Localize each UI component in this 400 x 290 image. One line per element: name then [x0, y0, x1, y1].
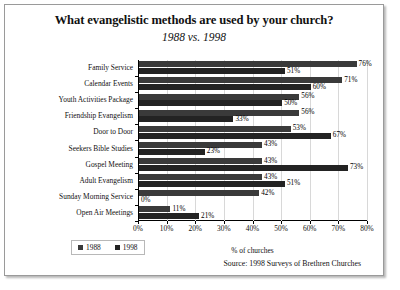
- bar-1998: [139, 181, 285, 187]
- bar-value-label: 43%: [264, 174, 277, 181]
- bar-value-label: 67%: [333, 132, 346, 139]
- gridline: [367, 60, 368, 221]
- x-axis-title: % of churches: [138, 246, 367, 255]
- bar-row: Adult Evangelism43%51%: [138, 173, 367, 189]
- category-label: Open Air Meetings: [76, 209, 133, 216]
- legend-item-1998: 1998: [115, 243, 138, 252]
- category-label: Door to Door: [93, 128, 133, 135]
- x-tick-label: 60%: [303, 224, 317, 233]
- x-tick-label: 10%: [160, 224, 174, 233]
- bar-row: Calendar Events71%60%: [138, 76, 367, 92]
- category-label: Adult Evangelism: [79, 177, 133, 184]
- bar-row: Gospel Meeting43%73%: [138, 157, 367, 173]
- category-label: Seekers Bible Studies: [69, 145, 133, 152]
- bar-value-label: 23%: [207, 148, 220, 155]
- legend: 1988 1998: [71, 240, 145, 255]
- x-tick-label: 40%: [246, 224, 260, 233]
- chart-title: What evangelistic methods are used by yo…: [5, 13, 383, 28]
- bar-value-label: 60%: [313, 84, 326, 91]
- bar-value-label: 56%: [301, 109, 314, 116]
- x-tick-label: 80%: [360, 224, 374, 233]
- category-label: Youth Activities Package: [59, 96, 133, 103]
- bar-1998: [139, 213, 199, 219]
- bar-1988: [139, 126, 291, 132]
- bar-1988: [139, 142, 262, 148]
- category-label: Sunday Morning Service: [59, 193, 133, 200]
- legend-label-1988: 1988: [86, 243, 101, 252]
- bar-1988: [139, 94, 299, 100]
- bar-value-label: 51%: [287, 180, 300, 187]
- bar-value-label: 51%: [287, 68, 300, 75]
- x-tick-label: 50%: [274, 224, 288, 233]
- bar-1998: [139, 133, 331, 139]
- bar-1998: [139, 68, 285, 74]
- x-tick-label: 0%: [133, 224, 143, 233]
- category-label: Calendar Events: [84, 80, 133, 87]
- bar-value-label: 43%: [264, 158, 277, 165]
- bar-value-label: 21%: [201, 213, 214, 220]
- bar-value-label: 56%: [301, 93, 314, 100]
- bar-row: Youth Activities Package56%50%: [138, 92, 367, 108]
- bar-value-label: 0%: [141, 197, 151, 204]
- x-tick-label: 20%: [188, 224, 202, 233]
- bar-1998: [139, 149, 205, 155]
- plot-area: Family Service76%51%Calendar Events71%60…: [138, 60, 367, 221]
- legend-item-1988: 1988: [78, 243, 101, 252]
- bar-value-label: 53%: [293, 125, 306, 132]
- legend-swatch-1998: [115, 245, 120, 250]
- bar-1998: [139, 116, 233, 122]
- bar-value-label: 76%: [359, 61, 372, 68]
- x-tick-label: 70%: [332, 224, 346, 233]
- bar-1998: [139, 84, 311, 90]
- y-tick-mark: [135, 221, 138, 222]
- bar-value-label: 11%: [172, 206, 185, 213]
- legend-label-1998: 1998: [123, 243, 138, 252]
- bar-1988: [139, 61, 357, 67]
- bar-1988: [139, 110, 299, 116]
- chart-frame: What evangelistic methods are used by yo…: [4, 4, 384, 276]
- chart-subtitle: 1988 vs. 1998: [5, 31, 383, 43]
- legend-swatch-1988: [78, 245, 83, 250]
- category-label: Friendship Evangelism: [65, 112, 133, 119]
- bar-row: Family Service76%51%: [138, 60, 367, 76]
- bar-value-label: 33%: [235, 116, 248, 123]
- x-tick-label: 30%: [217, 224, 231, 233]
- category-label: Family Service: [88, 64, 133, 71]
- bar-1988: [139, 77, 342, 83]
- bar-1988: [139, 158, 262, 164]
- bar-row: Door to Door53%67%: [138, 124, 367, 140]
- bar-row: Friendship Evangelism56%33%: [138, 108, 367, 124]
- bar-row: Sunday Morning Service42%0%: [138, 189, 367, 205]
- bar-1998: [139, 165, 348, 171]
- bar-row: Open Air Meetings11%21%: [138, 205, 367, 221]
- bar-1988: [139, 190, 259, 196]
- bar-1988: [139, 174, 262, 180]
- bar-1998: [139, 100, 282, 106]
- bar-value-label: 43%: [264, 141, 277, 148]
- bar-value-label: 50%: [284, 100, 297, 107]
- bar-row: Seekers Bible Studies43%23%: [138, 141, 367, 157]
- bar-value-label: 42%: [261, 190, 274, 197]
- bar-value-label: 71%: [344, 77, 357, 84]
- source-note: Source: 1998 Surveys of Brethren Churche…: [224, 259, 362, 268]
- bar-value-label: 73%: [350, 164, 363, 171]
- category-label: Gospel Meeting: [86, 161, 133, 168]
- bar-1988: [139, 206, 170, 212]
